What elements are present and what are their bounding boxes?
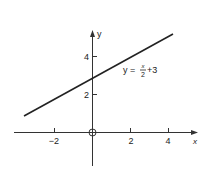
y-tick-label-2: 2 [84, 90, 89, 100]
series-line [24, 34, 173, 116]
x-axis-label: x [192, 137, 198, 146]
x-tick-label-2: 2 [128, 136, 133, 146]
equation-suffix: +3 [147, 65, 157, 75]
y-axis-arrow-icon [90, 30, 95, 37]
x-tick-label-neg2: −2 [49, 136, 59, 146]
line-chart: −2 2 4 4 2 x y y = x 2 +3 [0, 0, 214, 174]
equation-numerator: x [141, 63, 146, 69]
equation-denominator: 2 [141, 71, 145, 78]
equation-label: y = x 2 +3 [123, 63, 157, 78]
x-axis-arrow-icon [191, 130, 198, 135]
equation-prefix: y = [123, 65, 135, 75]
x-tick-label-4: 4 [165, 136, 170, 146]
y-axis-label: y [97, 29, 102, 39]
y-tick-label-4: 4 [84, 52, 89, 62]
